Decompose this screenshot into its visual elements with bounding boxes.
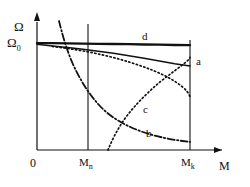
x-tick-mk-symbol: M <box>181 156 191 168</box>
x-axis-arrowhead <box>214 147 222 153</box>
curve-label-b: b <box>146 128 152 139</box>
x-tick-mk-subscript: k <box>191 162 195 171</box>
y-tick-omega0-symbol: Ω <box>7 35 17 50</box>
y-axis-title: Ω <box>14 20 24 33</box>
curve-label-d: d <box>142 31 148 42</box>
x-tick-mn-subscript: n <box>89 162 93 171</box>
x-tick-mk: Mk <box>181 157 195 171</box>
curve-d-path <box>37 43 190 45</box>
x-tick-mn-symbol: M <box>79 156 89 168</box>
x-tick-mn: Mn <box>79 157 93 171</box>
y-tick-omega0: Ω0 <box>7 36 21 53</box>
figure-container: Ω Ω0 0 Mn Mk M a b c d <box>0 0 250 187</box>
curve-label-a: a <box>196 56 201 67</box>
y-axis-arrowhead <box>34 12 40 21</box>
curve-b-path <box>59 21 190 142</box>
origin-tick-label: 0 <box>30 157 36 169</box>
x-axis-title: M <box>219 160 230 172</box>
y-tick-omega0-subscript: 0 <box>17 44 21 53</box>
curve-label-c: c <box>143 104 148 115</box>
omega-vs-m-chart <box>0 0 250 187</box>
